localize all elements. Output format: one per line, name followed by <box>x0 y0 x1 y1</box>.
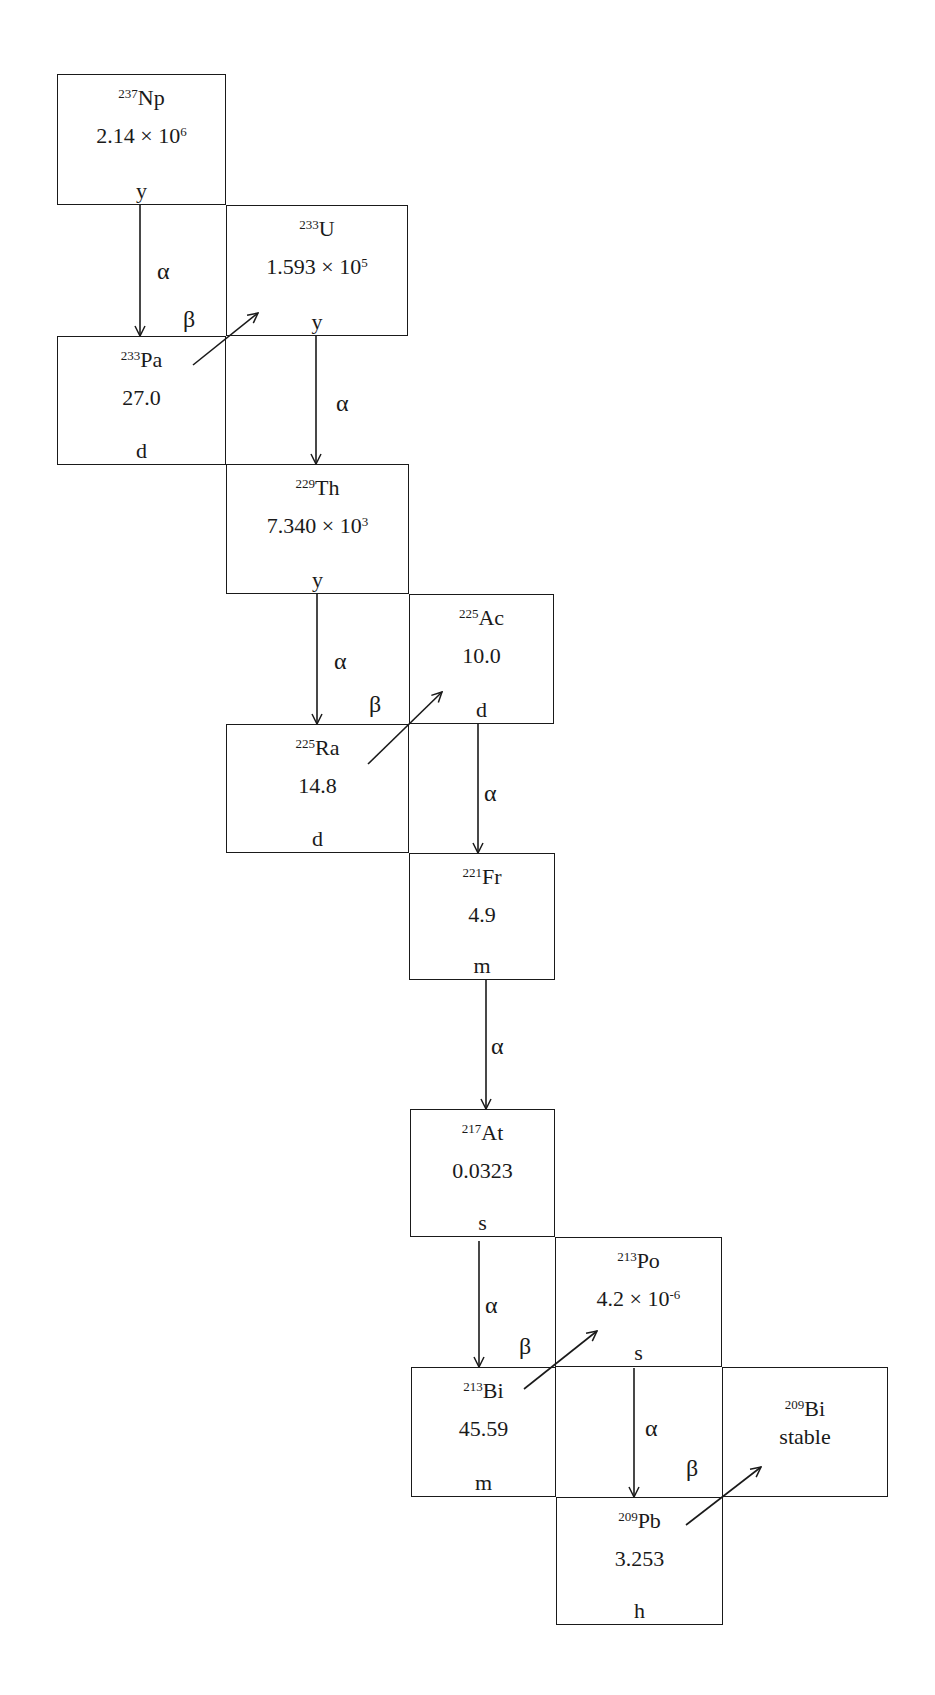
half-life-value: 7.340 × 103 <box>227 515 408 537</box>
nuclide-box-bi213: 213Bi45.59m <box>411 1367 556 1497</box>
mass-number: 217 <box>462 1121 482 1136</box>
half-life-value: 4.9 <box>410 904 554 926</box>
nuclide-box-pb209: 209Pb3.253h <box>556 1497 723 1625</box>
half-life-unit: d <box>58 440 225 462</box>
isotope-label: 225Ac <box>410 607 553 629</box>
alpha-decay-label: α <box>485 1293 498 1317</box>
nuclide-box-at217: 217At0.0323s <box>410 1109 555 1237</box>
half-life-number: 1.593 × 10 <box>266 254 361 279</box>
half-life-unit: s <box>556 1342 721 1364</box>
mass-number: 221 <box>462 865 482 880</box>
half-life-number: 14.8 <box>298 773 337 798</box>
isotope-label: 233U <box>227 218 407 240</box>
isotope-label: 213Po <box>556 1250 721 1272</box>
element-symbol: Th <box>315 475 339 500</box>
beta-decay-label: β <box>183 307 195 331</box>
alpha-decay-label: α <box>491 1034 504 1058</box>
half-life-value: stable <box>723 1426 887 1448</box>
alpha-decay-label: α <box>334 649 347 673</box>
half-life-value: 45.59 <box>412 1418 555 1440</box>
nuclide-box-ac225: 225Ac10.0d <box>409 594 554 724</box>
element-symbol: Ra <box>315 735 339 760</box>
mass-number: 233 <box>121 348 141 363</box>
half-life-value: 4.2 × 10-6 <box>556 1288 721 1310</box>
half-life-value: 10.0 <box>410 645 553 667</box>
half-life-number: 7.340 × 10 <box>267 513 362 538</box>
half-life-number: 2.14 × 10 <box>96 123 180 148</box>
half-life-unit: s <box>411 1212 554 1234</box>
nuclide-box-po213: 213Po4.2 × 10-6s <box>555 1237 722 1367</box>
half-life-unit: d <box>410 699 553 721</box>
nuclide-box-u233: 233U1.593 × 105y <box>226 205 408 336</box>
half-life-exponent: 3 <box>362 514 369 529</box>
isotope-label: 237Np <box>58 87 225 109</box>
half-life-number: 10.0 <box>462 643 501 668</box>
half-life-number: 45.59 <box>459 1416 509 1441</box>
mass-number: 233 <box>299 217 319 232</box>
mass-number: 225 <box>459 606 479 621</box>
nuclide-box-bi209: 209Bistable <box>722 1367 888 1497</box>
mass-number: 237 <box>118 86 138 101</box>
element-symbol: Np <box>138 85 165 110</box>
beta-decay-label: β <box>369 692 381 716</box>
element-symbol: Bi <box>483 1378 504 1403</box>
beta-decay-label: β <box>686 1456 698 1480</box>
alpha-decay-label: α <box>484 781 497 805</box>
isotope-label: 225Ra <box>227 737 408 759</box>
half-life-exponent: 6 <box>180 124 187 139</box>
nuclide-box-np237: 237Np2.14 × 106y <box>57 74 226 205</box>
half-life-number: 3.253 <box>615 1546 665 1571</box>
mass-number: 209 <box>618 1509 638 1524</box>
half-life-unit: y <box>58 180 225 202</box>
element-symbol: Bi <box>804 1396 825 1421</box>
element-symbol: At <box>481 1120 503 1145</box>
half-life-exponent: 5 <box>361 255 368 270</box>
mass-number: 225 <box>296 736 316 751</box>
mass-number: 213 <box>617 1249 637 1264</box>
element-symbol: Ac <box>478 605 504 630</box>
isotope-label: 213Bi <box>412 1380 555 1402</box>
half-life-unit: y <box>227 569 408 591</box>
nuclide-box-th229: 229Th7.340 × 103y <box>226 464 409 594</box>
half-life-value: 0.0323 <box>411 1160 554 1182</box>
mass-number: 229 <box>296 476 316 491</box>
half-life-number: 0.0323 <box>452 1158 513 1183</box>
alpha-decay-label: α <box>157 259 170 283</box>
element-symbol: Pb <box>638 1508 661 1533</box>
half-life-number: 27.0 <box>122 385 161 410</box>
alpha-decay-label: α <box>336 391 349 415</box>
half-life-value: 1.593 × 105 <box>227 256 407 278</box>
isotope-label: 233Pa <box>58 349 225 371</box>
element-symbol: Po <box>637 1248 660 1273</box>
half-life-number: stable <box>779 1424 830 1449</box>
alpha-decay-label: α <box>645 1416 658 1440</box>
isotope-label: 229Th <box>227 477 408 499</box>
nuclide-box-fr221: 221Fr4.9m <box>409 853 555 980</box>
isotope-label: 217At <box>411 1122 554 1144</box>
element-symbol: U <box>319 216 335 241</box>
half-life-unit: d <box>227 828 408 850</box>
nuclide-box-ra225: 225Ra14.8d <box>226 724 409 853</box>
half-life-unit: m <box>410 955 554 977</box>
half-life-exponent: -6 <box>670 1287 681 1302</box>
isotope-label: 209Bi <box>723 1398 887 1420</box>
half-life-value: 27.0 <box>58 387 225 409</box>
isotope-label: 221Fr <box>410 866 554 888</box>
isotope-label: 209Pb <box>557 1510 722 1532</box>
half-life-value: 3.253 <box>557 1548 722 1570</box>
half-life-unit: m <box>412 1472 555 1494</box>
element-symbol: Pa <box>140 347 162 372</box>
mass-number: 209 <box>785 1397 805 1412</box>
beta-decay-label: β <box>519 1334 531 1358</box>
half-life-unit: y <box>227 311 407 333</box>
nuclide-box-pa233: 233Pa27.0d <box>57 336 226 465</box>
half-life-unit: h <box>557 1600 722 1622</box>
element-symbol: Fr <box>482 864 502 889</box>
half-life-value: 14.8 <box>227 775 408 797</box>
mass-number: 213 <box>463 1379 483 1394</box>
half-life-number: 4.9 <box>468 902 496 927</box>
half-life-number: 4.2 × 10 <box>597 1286 670 1311</box>
half-life-value: 2.14 × 106 <box>58 125 225 147</box>
